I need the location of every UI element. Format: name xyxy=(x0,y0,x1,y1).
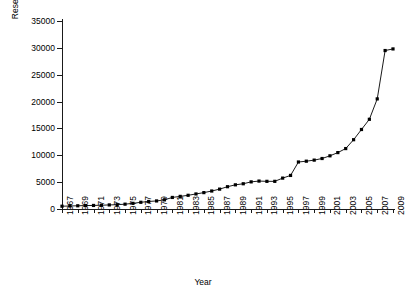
data-point xyxy=(155,199,158,202)
data-point xyxy=(108,203,111,206)
y-tick-label: 10000 xyxy=(7,151,55,160)
data-point xyxy=(360,128,363,131)
x-tick-label: 1997 xyxy=(302,196,311,215)
data-point xyxy=(265,180,268,183)
y-axis-line xyxy=(62,19,63,211)
x-tick-label: 2009 xyxy=(397,196,406,215)
data-point xyxy=(289,174,292,177)
data-point xyxy=(320,157,323,160)
x-tick-label: 1971 xyxy=(97,196,106,215)
x-tick-label: 1999 xyxy=(318,196,327,215)
data-point xyxy=(344,147,347,150)
data-point xyxy=(92,204,95,207)
data-point xyxy=(305,160,308,163)
data-point xyxy=(257,179,260,182)
x-tick-label: 1975 xyxy=(129,196,138,215)
x-tick-label: 1977 xyxy=(144,196,153,215)
x-tick-label: 1985 xyxy=(207,196,216,215)
data-point xyxy=(281,177,284,180)
x-axis-title: Year xyxy=(0,277,406,287)
series-line xyxy=(62,49,393,206)
data-point xyxy=(368,118,371,121)
x-tick-label: 2005 xyxy=(365,196,374,215)
y-tick-label: 25000 xyxy=(7,71,55,80)
data-point xyxy=(76,204,79,207)
x-tick-label: 2007 xyxy=(381,196,390,215)
data-point xyxy=(234,183,237,186)
x-tick-label: 1981 xyxy=(176,196,185,215)
y-tick-label: 0 xyxy=(7,205,55,214)
y-tick-label: 30000 xyxy=(7,44,55,53)
data-point xyxy=(210,189,213,192)
data-point xyxy=(384,49,387,52)
data-point xyxy=(202,191,205,194)
x-tick-label: 1983 xyxy=(192,196,201,215)
data-point xyxy=(328,154,331,157)
x-tick-label: 1989 xyxy=(239,196,248,215)
x-tick-label: 1973 xyxy=(113,196,122,215)
x-tick-label: 1995 xyxy=(286,196,295,215)
x-tick-label: 1979 xyxy=(160,196,169,215)
data-point xyxy=(226,185,229,188)
data-point xyxy=(273,180,276,183)
x-tick-label: 2001 xyxy=(333,196,342,215)
x-tick-label: 1987 xyxy=(223,196,232,215)
data-point xyxy=(250,180,253,183)
x-tick-label: 2003 xyxy=(349,196,358,215)
x-tick-label: 1993 xyxy=(270,196,279,215)
data-point xyxy=(123,203,126,206)
data-point xyxy=(352,138,355,141)
y-tick-label: 15000 xyxy=(7,124,55,133)
y-tick-label: 20000 xyxy=(7,98,55,107)
data-point xyxy=(297,160,300,163)
data-point xyxy=(391,47,394,50)
y-axis-tick-labels: 05000100001500020000250003000035000 xyxy=(0,0,55,293)
x-tick-label: 1991 xyxy=(255,196,264,215)
x-tick-label: 1969 xyxy=(81,196,90,215)
research-output-line-chart: Research Output Year 0500010000150002000… xyxy=(0,0,406,293)
data-point xyxy=(242,182,245,185)
x-tick-label: 1967 xyxy=(66,196,75,215)
data-point xyxy=(139,201,142,204)
data-series xyxy=(0,0,406,293)
data-point xyxy=(313,159,316,162)
data-point xyxy=(187,194,190,197)
x-axis-line xyxy=(62,209,395,210)
y-tick-label: 5000 xyxy=(7,178,55,187)
data-point xyxy=(376,97,379,100)
y-tick-label: 35000 xyxy=(7,17,55,26)
data-point xyxy=(336,151,339,154)
data-point xyxy=(171,196,174,199)
data-point xyxy=(218,188,221,191)
